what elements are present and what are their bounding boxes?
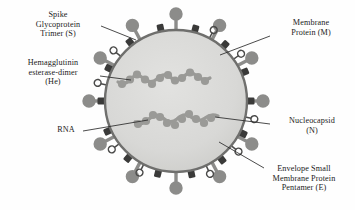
spike-icon [238, 53, 257, 66]
spike-icon [238, 137, 257, 150]
label-line: Pentamer (E) [255, 183, 353, 193]
label-line: Envelope Small [255, 164, 353, 174]
label-line: Membrane [272, 18, 350, 28]
spike-icon [212, 162, 225, 181]
label-rna: RNA [46, 125, 86, 135]
spike-icon [127, 162, 140, 181]
spike-icon [127, 20, 140, 39]
label-line: Glycoprotein [14, 20, 102, 30]
label-line: RNA [46, 125, 86, 135]
spike-icon [171, 172, 181, 193]
label-hemagglutinin-esterase-dimer: Hemagglutinin esterase-dimer (He) [4, 58, 102, 87]
label-line: Trimer (S) [14, 29, 102, 39]
label-envelope-small-membrane-protein: Envelope Small Membrane Protein Pentamer… [255, 164, 353, 193]
label-line: (N) [272, 126, 352, 136]
label-line: (He) [4, 77, 102, 87]
label-line: Hemagglutinin [4, 58, 102, 68]
label-line: Nucleocapsid [272, 116, 352, 126]
label-line: Spike [14, 10, 102, 20]
label-membrane-protein: Membrane Protein (M) [272, 18, 350, 37]
spike-icon [171, 9, 181, 30]
spike-icon [212, 20, 225, 39]
label-line: Protein (M) [272, 28, 350, 38]
label-spike-glycoprotein: Spike Glycoprotein Trimer (S) [14, 10, 102, 39]
label-line: Membrane Protein [255, 174, 353, 184]
label-line: esterase-dimer [4, 68, 102, 78]
spike-icon [95, 137, 114, 150]
viral-envelope [105, 30, 247, 172]
label-nucleocapsid: Nucleocapsid (N) [272, 116, 352, 135]
